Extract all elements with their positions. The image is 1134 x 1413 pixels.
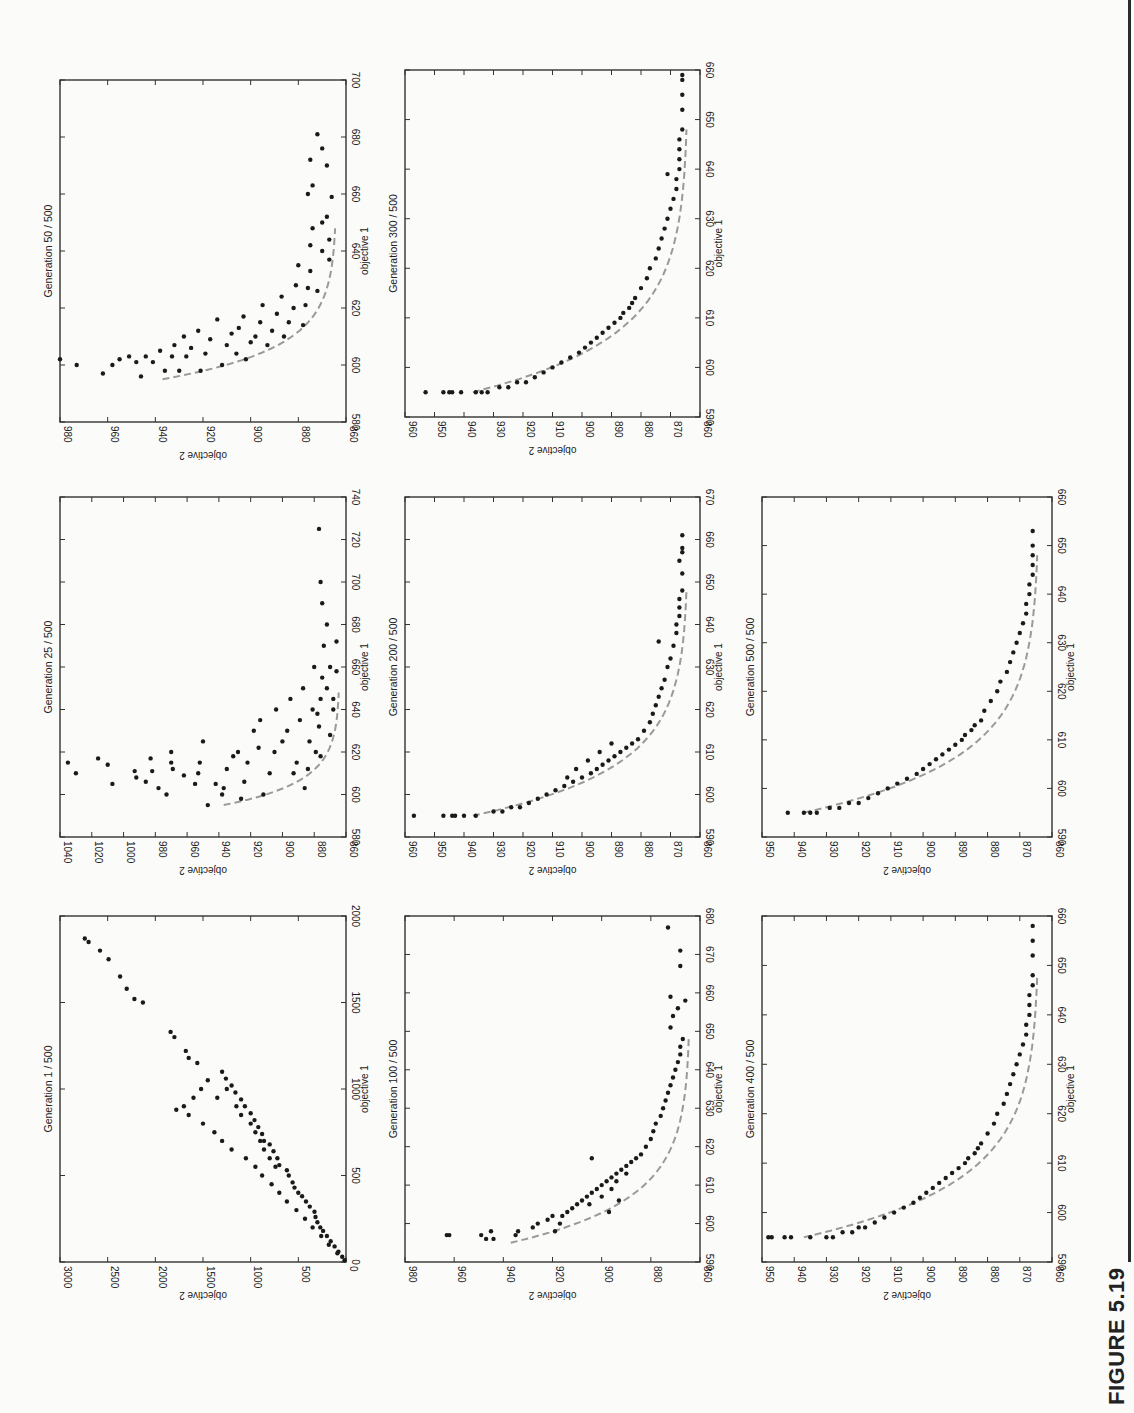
scatter-panel: 8608708808909009109209309409505906006106… — [744, 489, 1076, 876]
data-point — [680, 108, 684, 112]
panel-title: Generation 100 / 500 — [387, 1040, 399, 1139]
data-point — [617, 1198, 621, 1202]
figure-caption: FIGURE 5.19 — [1104, 1267, 1130, 1405]
data-point — [303, 1217, 307, 1221]
data-point — [220, 1070, 224, 1074]
data-point — [944, 1176, 948, 1180]
data-point — [828, 806, 832, 810]
data-point — [857, 801, 861, 805]
data-point — [680, 588, 684, 592]
data-point — [182, 334, 186, 338]
plot-frame — [60, 80, 346, 422]
data-point — [815, 811, 819, 815]
data-point — [132, 997, 136, 1001]
data-point — [979, 1141, 983, 1145]
pareto-front-curve — [804, 555, 1037, 812]
y-tick-label: 880 — [643, 841, 654, 858]
y-axis-label: objective 2 — [179, 1290, 227, 1301]
data-point — [285, 1199, 289, 1203]
data-point — [98, 948, 102, 952]
data-point — [1027, 582, 1031, 586]
data-point — [191, 1096, 195, 1100]
data-point — [553, 1229, 557, 1233]
data-point — [1024, 602, 1028, 606]
data-point — [272, 750, 276, 754]
data-point — [562, 784, 566, 788]
data-point — [931, 1186, 935, 1190]
data-point — [607, 1210, 611, 1214]
x-tick-label: 700 — [350, 72, 361, 89]
data-point — [866, 796, 870, 800]
data-point — [334, 669, 338, 673]
data-point — [249, 340, 253, 344]
data-point — [998, 679, 1002, 683]
data-point — [229, 331, 233, 335]
data-point — [654, 256, 658, 260]
data-point — [106, 957, 110, 961]
data-point — [677, 605, 681, 609]
data-point — [75, 363, 79, 367]
y-axis-label: objective 2 — [179, 450, 227, 461]
data-point — [1011, 650, 1015, 654]
data-point — [568, 355, 572, 359]
data-point — [229, 1147, 233, 1151]
y-tick-label: 880 — [643, 421, 654, 438]
data-point — [633, 296, 637, 300]
data-point — [287, 1173, 291, 1177]
data-point — [600, 331, 604, 335]
data-point — [824, 1235, 828, 1239]
data-point — [118, 974, 122, 978]
data-point — [873, 1220, 877, 1224]
data-point — [668, 1025, 672, 1029]
data-point — [184, 354, 188, 358]
data-point — [960, 738, 964, 742]
y-tick-label: 890 — [957, 841, 968, 858]
pareto-front-curve — [224, 693, 339, 806]
data-point — [662, 678, 666, 682]
data-point — [1031, 953, 1035, 957]
data-point — [474, 814, 478, 818]
data-point — [308, 158, 312, 162]
data-point — [474, 390, 478, 394]
data-point — [96, 756, 100, 760]
data-point — [589, 340, 593, 344]
y-tick-label: 980 — [407, 1266, 418, 1283]
plot-frame — [762, 497, 1052, 837]
x-tick-label: 590 — [704, 409, 715, 426]
data-point — [671, 1014, 675, 1018]
data-point — [328, 665, 332, 669]
data-point — [447, 1233, 451, 1237]
data-point — [236, 750, 240, 754]
data-point — [886, 786, 890, 790]
data-point — [485, 390, 489, 394]
data-point — [595, 1187, 599, 1191]
data-point — [550, 365, 554, 369]
data-point — [479, 1233, 483, 1237]
data-point — [265, 343, 269, 347]
data-point — [1014, 1062, 1018, 1066]
data-point — [583, 345, 587, 349]
y-tick-label: 960 — [109, 426, 120, 443]
data-point — [258, 718, 262, 722]
y-tick-label: 920 — [554, 1266, 565, 1283]
data-point — [273, 1165, 277, 1169]
data-point — [671, 197, 675, 201]
y-tick-label: 2000 — [157, 1266, 168, 1289]
data-point — [1021, 1042, 1025, 1046]
data-point — [462, 814, 466, 818]
panel-title: Generation 200 / 500 — [387, 618, 399, 717]
data-point — [196, 329, 200, 333]
data-point — [1027, 1013, 1031, 1017]
data-point — [177, 369, 181, 373]
panel-title: Generation 300 / 500 — [387, 194, 399, 293]
data-point — [515, 380, 519, 384]
y-tick-label: 870 — [672, 421, 683, 438]
data-point — [172, 1035, 176, 1039]
data-point — [239, 1097, 243, 1101]
x-tick-label: 660 — [1056, 489, 1067, 506]
y-axis-label: objective 2 — [883, 865, 931, 876]
data-point — [989, 699, 993, 703]
data-point — [83, 936, 87, 940]
data-point — [330, 195, 334, 199]
data-point — [966, 1156, 970, 1160]
